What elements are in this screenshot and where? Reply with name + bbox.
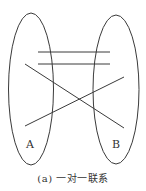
figure-caption: (a) 一对一联系 bbox=[0, 170, 146, 185]
set-b-label: B bbox=[112, 138, 120, 151]
diagram-canvas: A B bbox=[0, 0, 146, 170]
one-to-one-relationship-diagram: A B (a) 一对一联系 bbox=[0, 0, 146, 191]
set-a-label: A bbox=[25, 138, 35, 151]
